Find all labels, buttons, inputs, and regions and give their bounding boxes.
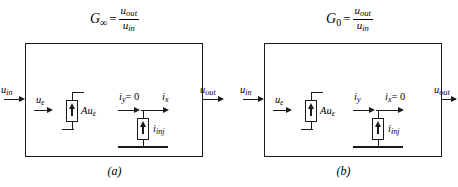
fraction-numerator-b: uout [353, 5, 373, 18]
current-x-arrow-icon-b [398, 107, 404, 113]
output-arrow-icon-b [451, 96, 457, 102]
current-x-label-a: ix [162, 92, 169, 104]
current-y-label-a: iy= 0 [119, 92, 139, 104]
gain-formula-b: G0=uoutuin [235, 6, 458, 35]
dep-source-label-a: Auε [81, 106, 96, 118]
error-arrow-icon-a [47, 107, 53, 113]
fraction-numerator-a: uout [119, 5, 139, 18]
current-x-wire-b [376, 110, 400, 111]
fraction-denominator-b: uin [353, 20, 373, 33]
fraction-denominator-a: uin [119, 20, 139, 33]
dep-source-bottom-rail-b [301, 129, 313, 130]
panel-b: G0=uoutuin uin uout uε Auε iy ix= 0 [229, 0, 458, 187]
equals-sign-a: = [109, 11, 116, 26]
input-arrow-icon-b [258, 96, 264, 102]
panel-a: G∞=uoutuin uin uout uε Auε iy= 0 ix [0, 0, 229, 187]
ground-rail-b [353, 146, 403, 148]
dep-source-top-rail-b [311, 92, 323, 93]
dep-source-bottom-rail-a [62, 129, 74, 130]
input-label-a: uin [1, 85, 13, 97]
inject-top-lead-b [378, 110, 379, 118]
output-label-a: uout [200, 85, 216, 97]
current-x-label-b: ix= 0 [385, 92, 405, 104]
gain-formula-a: G∞=uoutuin [0, 6, 229, 35]
error-voltage-label-b: uε [275, 95, 283, 107]
dep-source-arrow-shaft-a [71, 106, 72, 116]
current-x-arrow-icon-a [163, 107, 169, 113]
dep-source-label-b: Auε [320, 106, 335, 118]
error-voltage-label-a: uε [36, 95, 44, 107]
error-arrow-icon-b [286, 107, 292, 113]
inject-arrow-shaft-b [377, 124, 378, 134]
caption-a: (a) [0, 164, 229, 179]
caption-b: (b) [229, 164, 458, 179]
equals-sign-b: = [343, 11, 350, 26]
dep-source-arrow-shaft-b [310, 106, 311, 116]
gain-subscript-a: ∞ [100, 17, 107, 28]
gain-subscript-b: 0 [336, 17, 341, 28]
gain-fraction-b: uoutuin [353, 5, 373, 34]
current-y-arrow-icon-b [369, 107, 375, 113]
two-port-block-a [25, 43, 203, 157]
gain-symbol-b: G [326, 11, 336, 26]
input-arrow-icon-a [19, 96, 25, 102]
current-x-wire-a [141, 110, 165, 111]
dep-source-top-rail-a [72, 92, 84, 93]
inject-current-label-b: iinj [388, 124, 400, 136]
input-label-b: uin [240, 85, 252, 97]
inject-arrow-shaft-a [142, 124, 143, 134]
two-port-block-b [264, 43, 442, 157]
current-y-label-b: iy [354, 92, 361, 104]
ground-rail-a [118, 146, 168, 148]
circuit-figure: G∞=uoutuin uin uout uε Auε iy= 0 ix [0, 0, 458, 187]
gain-fraction-a: uoutuin [119, 5, 139, 34]
gain-symbol-a: G [90, 11, 100, 26]
output-label-b: uout [434, 85, 450, 97]
current-y-arrow-icon-a [134, 107, 140, 113]
inject-top-lead-a [143, 110, 144, 118]
inject-current-label-a: iinj [153, 124, 165, 136]
output-arrow-icon-a [218, 96, 224, 102]
